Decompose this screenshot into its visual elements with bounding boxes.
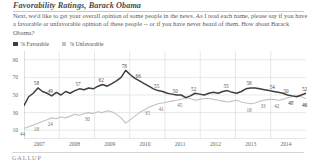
legend-item-favorable: % Favorable <box>13 41 49 47</box>
chart-legend: % Favorable % Unfavorable <box>13 41 103 47</box>
data-label-unfavorable-18: 18 <box>34 126 39 132</box>
y-axis-tick-50: 50 <box>6 92 18 98</box>
y-axis-tick-90: 90 <box>6 57 18 63</box>
data-label-unfavorable-30: 30 <box>85 116 90 122</box>
page-title: Favorability Ratings, Barack Obama <box>13 1 141 10</box>
data-label-unfavorable-44: 44 <box>20 131 25 137</box>
x-axis-tick-2012: 2012 <box>210 141 221 147</box>
data-label-unfavorable-41: 41 <box>159 106 164 112</box>
data-label-favorable-52: 52 <box>302 86 307 92</box>
data-label-unfavorable-45: 45 <box>177 102 182 108</box>
data-label-unfavorable-46: 46 <box>302 102 307 108</box>
data-label-unfavorable-42: 42 <box>274 103 279 109</box>
x-axis-tick-2011: 2011 <box>175 141 186 147</box>
x-axis-tick-2013: 2013 <box>245 141 256 147</box>
data-label-favorable-55: 55 <box>223 83 228 89</box>
data-label-favorable-57: 57 <box>75 81 80 87</box>
data-label-favorable-66: 66 <box>136 73 141 79</box>
y-axis-tick-10: 10 <box>6 127 18 133</box>
y-axis-tick-70: 70 <box>6 74 18 80</box>
x-axis-tick-2008: 2008 <box>69 141 80 147</box>
data-label-unfavorable-24: 24 <box>48 121 53 127</box>
data-label-favorable-58: 58 <box>247 80 252 86</box>
source-logo: GALLUP <box>12 154 42 161</box>
data-label-favorable-58: 58 <box>34 80 39 86</box>
x-axis-tick-2009: 2009 <box>104 141 115 147</box>
data-label-favorable-52: 52 <box>191 86 196 92</box>
x-axis-tick-2007: 2007 <box>34 141 45 147</box>
plot-area <box>24 51 306 139</box>
data-label-unfavorable-18: 18 <box>247 107 252 113</box>
legend-swatch-favorable-icon <box>13 42 18 47</box>
data-label-favorable-78: 78 <box>122 63 127 69</box>
x-axis-tick-2010: 2010 <box>139 141 150 147</box>
legend-item-unfavorable: % Unfavorable <box>62 41 104 47</box>
data-label-favorable-50: 50 <box>284 88 289 94</box>
legend-swatch-unfavorable-icon <box>62 42 67 47</box>
footer-divider <box>12 152 304 153</box>
data-label-favorable-55: 55 <box>154 83 159 89</box>
data-label-unfavorable-35: 35 <box>145 110 150 116</box>
data-label-unfavorable-33: 33 <box>260 103 265 109</box>
chart-figure: Favorability Ratings, Barack Obama Next,… <box>0 0 317 168</box>
line-chart-svg <box>24 51 306 139</box>
legend-label-unfavorable: % Unfavorable <box>69 41 103 47</box>
data-label-favorable-50: 50 <box>173 88 178 94</box>
data-label-favorable-54: 54 <box>270 84 275 90</box>
y-axis-tick-30: 30 <box>6 110 18 116</box>
data-label-unfavorable-48: 48 <box>288 100 293 106</box>
data-label-favorable-49: 49 <box>48 88 53 94</box>
chart-subtitle: Next, we'd like to get your overall opin… <box>13 12 308 37</box>
data-label-favorable-62: 62 <box>99 77 104 83</box>
x-axis-tick-2014: 2014 <box>280 141 291 147</box>
legend-label-favorable: % Favorable <box>21 41 49 47</box>
